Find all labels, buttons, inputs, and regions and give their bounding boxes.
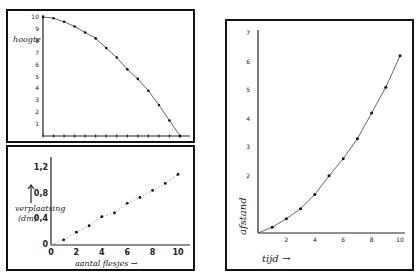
- data-point: [399, 54, 402, 57]
- data-point: [115, 56, 118, 59]
- data-point: [139, 196, 142, 199]
- data-point: [370, 112, 373, 115]
- y-tick-label: 1,2: [34, 163, 48, 172]
- data-point: [299, 207, 302, 210]
- data-point: [285, 217, 288, 220]
- y-tick-label: 9: [35, 25, 39, 32]
- x-tick-label: 4: [313, 236, 317, 243]
- x-tick-label: 10: [172, 248, 184, 257]
- data-point: [271, 226, 274, 229]
- x-tick-label: 10: [396, 236, 404, 243]
- chart-verplaatsing-xlabel: aantal flesjes →: [75, 259, 138, 268]
- x-tick-label: 6: [341, 236, 345, 243]
- y-tick-label: 3: [35, 96, 39, 103]
- data-point: [158, 104, 161, 107]
- data-point: [105, 47, 108, 50]
- chart-verplaatsing-ylabel-line1: verplaatsing: [15, 204, 65, 213]
- y-tick-label: 4: [246, 115, 250, 122]
- y-tick-label: 5: [246, 86, 250, 93]
- data-point: [313, 193, 316, 196]
- y-tick-label: 10: [31, 13, 39, 20]
- data-point: [84, 31, 87, 34]
- data-point: [179, 135, 182, 138]
- x-tick-label: 0: [48, 248, 54, 257]
- data-point: [168, 119, 171, 122]
- x-tick-label: 4: [99, 248, 105, 257]
- y-tick-label: 7: [35, 49, 39, 56]
- x-tick-label: 2: [74, 248, 80, 257]
- y-tick-label: 2: [35, 108, 39, 115]
- data-point: [177, 173, 180, 176]
- data-point: [88, 224, 91, 227]
- data-point: [126, 68, 129, 71]
- data-point: [384, 86, 387, 89]
- x-tick-label: 2: [284, 236, 288, 243]
- data-point: [73, 25, 76, 28]
- data-point: [63, 20, 66, 23]
- y-tick-label: 1: [35, 120, 39, 127]
- data-point: [151, 189, 154, 192]
- data-point: [342, 157, 345, 160]
- x-tick-label: 8: [370, 236, 374, 243]
- data-point: [94, 37, 97, 40]
- data-point: [126, 202, 129, 205]
- data-point: [328, 174, 331, 177]
- y-tick-label: 6: [35, 61, 39, 68]
- data-point: [113, 212, 116, 215]
- y-tick-label: 3: [246, 143, 250, 150]
- data-point: [137, 78, 140, 81]
- chart-afstand-xlabel: tijd →: [262, 253, 291, 264]
- y-tick-label: 5: [35, 73, 39, 80]
- y-tick-label: 7: [246, 29, 250, 36]
- y-tick-label: 4: [35, 84, 39, 91]
- chart-afstand-ylabel: afstand: [237, 197, 248, 235]
- y-tick-label: 6: [246, 58, 250, 65]
- data-point: [356, 137, 359, 140]
- data-point: [164, 182, 167, 185]
- charts-canvas: 12345678910 hoogte 00,40,81,20246810 ver…: [0, 0, 420, 278]
- data-point: [75, 231, 78, 234]
- data-point: [100, 215, 103, 218]
- data-point: [62, 238, 65, 241]
- y-tick-label: 0,8: [34, 189, 49, 198]
- x-tick-label: 6: [124, 248, 130, 257]
- data-point: [147, 89, 150, 92]
- data-point: [42, 16, 45, 19]
- data-point: [52, 17, 55, 20]
- chart-verplaatsing-ylabel-line2: (dm): [18, 214, 37, 223]
- chart-hoogte-ylabel: hoogte: [13, 35, 41, 44]
- x-tick-label: 8: [150, 248, 156, 257]
- y-tick-label: 2: [246, 172, 250, 179]
